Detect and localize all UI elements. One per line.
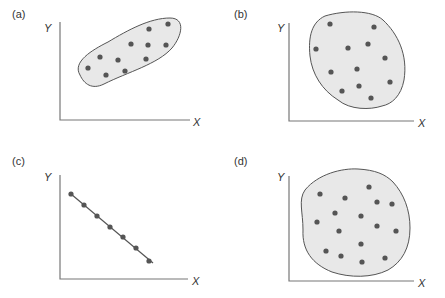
data-point (143, 56, 148, 61)
data-point (323, 248, 328, 253)
data-point (163, 42, 168, 47)
data-point (342, 195, 347, 200)
data-point (115, 57, 120, 62)
data-point (133, 245, 138, 250)
data-point (382, 55, 387, 60)
scatter-diagrams: (a) Y X (b) Y X (c) Y X (d) Y X (0, 0, 445, 298)
data-point (328, 69, 333, 74)
panel-a: (a) Y X (12, 8, 201, 128)
panel-a-blob (78, 18, 181, 86)
data-point (146, 26, 151, 31)
data-point (371, 24, 376, 29)
panel-b-blob (310, 12, 405, 109)
data-point (389, 201, 394, 206)
data-point (358, 213, 363, 218)
panel-b: (b) Y X (234, 8, 426, 129)
data-point (374, 223, 379, 228)
data-point (165, 21, 170, 26)
data-point (313, 46, 318, 51)
data-point (145, 42, 150, 47)
data-point (356, 83, 361, 88)
data-point (368, 95, 373, 100)
data-point (94, 213, 99, 218)
data-point (366, 184, 371, 189)
data-point (314, 219, 319, 224)
data-point (85, 65, 90, 70)
panel-d-y-label: Y (277, 171, 285, 183)
panel-c-label: (c) (12, 155, 25, 167)
data-point (332, 210, 337, 215)
panel-b-label: (b) (234, 8, 247, 20)
data-point (358, 241, 363, 246)
panel-a-x-label: X (192, 116, 201, 128)
data-point (393, 228, 398, 233)
data-point (354, 66, 359, 71)
data-point (365, 41, 370, 46)
data-point (107, 224, 112, 229)
panel-a-y-label: Y (44, 22, 52, 34)
data-point (128, 41, 133, 46)
panel-d-label: (d) (234, 155, 247, 167)
data-point (103, 72, 108, 77)
panel-c-axes (60, 175, 188, 279)
data-point (336, 228, 341, 233)
data-point (387, 79, 392, 84)
data-point (122, 68, 127, 73)
panel-d-x-label: X (417, 277, 426, 289)
data-point (374, 199, 379, 204)
data-point (359, 259, 364, 264)
data-point (81, 202, 86, 207)
panel-c-x-label: X (191, 275, 200, 287)
panel-a-label: (a) (12, 8, 25, 20)
panel-c-y-label: Y (44, 171, 52, 183)
data-point (120, 234, 125, 239)
data-point (317, 191, 322, 196)
data-point (327, 21, 332, 26)
panel-b-x-label: X (417, 117, 426, 129)
data-point (338, 253, 343, 258)
data-point (339, 88, 344, 93)
data-point (345, 45, 350, 50)
data-point (68, 191, 73, 196)
data-point (146, 258, 151, 263)
data-point (382, 255, 387, 260)
panel-d: (d) Y X (234, 155, 426, 289)
data-point (97, 54, 102, 59)
panel-b-y-label: Y (277, 22, 285, 34)
panel-c: (c) Y X (12, 155, 200, 287)
